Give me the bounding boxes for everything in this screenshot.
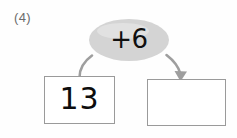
input-to-operation-curve [80, 56, 93, 78]
answer-number-box[interactable] [147, 79, 226, 126]
input-number-box: 13 [44, 76, 115, 124]
arrow-diagram-worksheet-item: (4) +6 13 [0, 0, 237, 138]
input-number-value: 13 [59, 84, 99, 114]
operation-bubble: +6 [89, 19, 169, 61]
operation-to-answer-curve [167, 55, 181, 74]
operation-label: +6 [110, 26, 147, 52]
